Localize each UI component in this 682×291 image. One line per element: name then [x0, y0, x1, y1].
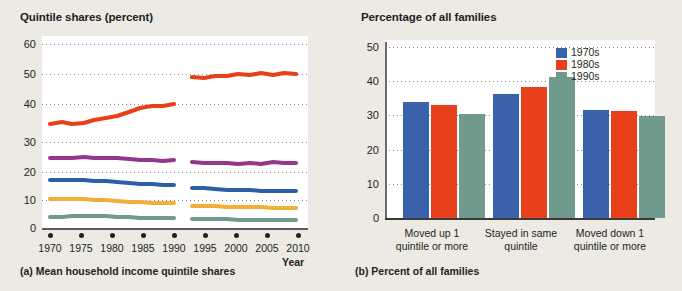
- series-line-fourth-left: [50, 157, 174, 161]
- ytick-b-10: 10: [357, 179, 379, 189]
- panel-a-line-chart: Quintile shares (percent) 60 50 40 30 20…: [0, 0, 341, 291]
- legend-label-1990s: 1990s: [571, 71, 600, 82]
- bar-1970s-stayed-same[interactable]: [493, 94, 519, 218]
- series-line-third-left: [50, 180, 174, 185]
- category-label-moved-down-line1: Moved down 1: [550, 227, 670, 240]
- panel-b-x-axis: [385, 218, 655, 220]
- figure-canvas: Quintile shares (percent) 60 50 40 30 20…: [0, 0, 682, 291]
- series-line-fourth-right: [192, 162, 296, 164]
- series-highest-quintile: [50, 73, 296, 124]
- series-line-third-right: [192, 188, 296, 191]
- panel-b-title: Percentage of all families: [361, 11, 496, 23]
- series-line-lowest-right: [192, 219, 296, 220]
- series-line-highest-right: [192, 73, 296, 78]
- series-second-quintile: [50, 199, 296, 208]
- xdot-1995: [203, 233, 208, 238]
- legend-item-1980s[interactable]: 1980s: [556, 59, 600, 70]
- bar-1970s-moved-up[interactable]: [403, 102, 429, 218]
- xdot-2005: [265, 233, 270, 238]
- legend-label-1980s: 1980s: [571, 59, 600, 70]
- xdot-1985: [141, 233, 146, 238]
- bar-1980s-stayed-same[interactable]: [521, 87, 547, 218]
- xdot-2010: [296, 233, 301, 238]
- category-label-moved-down-line2: quintile or more: [550, 240, 670, 253]
- series-line-highest-left: [50, 104, 174, 124]
- xdot-1980: [110, 233, 115, 238]
- ytick-b-30: 30: [357, 110, 379, 120]
- legend-label-1970s: 1970s: [571, 47, 600, 58]
- panel-b-bars-layer: [385, 40, 655, 218]
- xdot-1970: [48, 233, 53, 238]
- legend-swatch-1990s-icon: [556, 72, 567, 82]
- bar-1970s-moved-down[interactable]: [583, 110, 609, 218]
- panel-a-x-axis: [42, 228, 308, 230]
- bar-1980s-moved-up[interactable]: [431, 105, 457, 218]
- series-line-second-left: [50, 199, 174, 203]
- legend-swatch-1980s-icon: [556, 60, 567, 70]
- panel-a-caption: (a) Mean household income quintile share…: [20, 265, 235, 277]
- ytick-b-0: 0: [357, 213, 379, 223]
- xdot-2000: [234, 233, 239, 238]
- bar-1980s-moved-down[interactable]: [611, 111, 637, 218]
- series-fourth-quintile: [50, 157, 296, 164]
- ytick-b-40: 40: [357, 76, 379, 86]
- category-label-moved-down: Moved down 1 quintile or more: [550, 227, 670, 252]
- xdot-1990: [172, 233, 177, 238]
- series-line-second-right: [192, 206, 296, 208]
- ytick-b-50: 50: [357, 42, 379, 52]
- panel-a-x-axis-label: Year: [282, 256, 304, 268]
- panel-b-caption: (b) Percent of all families: [355, 265, 479, 277]
- bar-1990s-moved-up[interactable]: [459, 114, 485, 218]
- legend-swatch-1970s-icon: [556, 48, 567, 58]
- legend-item-1970s[interactable]: 1970s: [556, 47, 600, 58]
- bar-1990s-stayed-same[interactable]: [549, 77, 575, 218]
- legend-item-1990s[interactable]: 1990s: [556, 71, 600, 82]
- panel-b-legend: 1970s 1980s 1990s: [556, 47, 600, 82]
- ytick-b-20: 20: [357, 145, 379, 155]
- panel-b-bar-chart: Percentage of all families 50 40 30 20 1…: [341, 0, 682, 291]
- series-third-quintile: [50, 180, 296, 191]
- bar-1990s-moved-down[interactable]: [639, 116, 665, 218]
- xdot-1975: [79, 233, 84, 238]
- xtick-2010: 2010: [277, 243, 319, 254]
- series-lowest-quintile: [50, 216, 296, 220]
- series-line-lowest-left: [50, 216, 174, 218]
